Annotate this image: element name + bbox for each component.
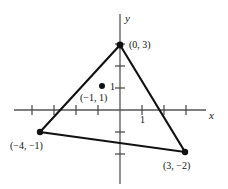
vertex-dot-bottom-left [37, 129, 43, 135]
point-label-bottom-left-vertex: (−4, −1) [10, 141, 43, 151]
point-label-bottom-right-vertex: (3, −2) [163, 161, 190, 171]
x-axis-label: x [209, 110, 214, 121]
vertex-dot-bottom-right [182, 149, 188, 155]
y-axis-label: y [125, 13, 130, 24]
coordinate-plane-figure: y x 1 1 (0, 3) (−4, −1) (3, −2) (−1, 1) [0, 0, 228, 189]
plot-canvas [0, 0, 228, 189]
x-axis-tick-label-1: 1 [140, 115, 145, 125]
y-axis-tick-label-1: 1 [110, 82, 115, 92]
point-label-top-vertex: (0, 3) [129, 40, 151, 50]
point-label-interior: (−1, 1) [80, 93, 107, 103]
interior-point-dot [99, 83, 105, 89]
triangle-shape [40, 45, 185, 152]
vertex-dot-top [117, 42, 124, 49]
